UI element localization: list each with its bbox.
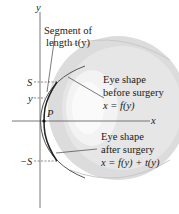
segment-label-line2: length t(y) <box>46 37 90 48</box>
point-P <box>42 119 45 122</box>
point-label-P: P <box>47 108 53 119</box>
before-label-line1: Eye shape <box>103 74 146 85</box>
tick-label-S: S <box>27 77 32 88</box>
tick-label-y: y <box>28 93 33 104</box>
after-label-formula: x = f(y) + t(y) <box>101 157 159 168</box>
tick-label-neg-S: −S <box>20 156 32 167</box>
after-label-line1: Eye shape <box>101 131 144 142</box>
after-label-line2: after surgery <box>101 144 154 155</box>
x-axis-label: x <box>151 115 156 126</box>
y-axis-label: y <box>36 2 41 13</box>
segment-label-line1: Segment of <box>44 25 92 36</box>
eye-surgery-diagram: y x S y −S P Segment of length t(y) Eye … <box>0 0 179 214</box>
before-label-line2: before surgery <box>103 87 164 98</box>
before-label-formula: x = f(y) <box>103 100 135 111</box>
